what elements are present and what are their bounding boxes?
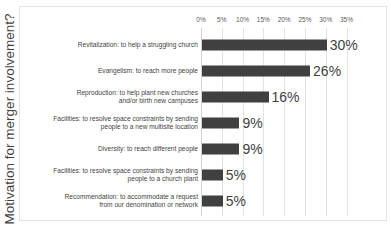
category-label: Revitalization: to help a struggling chu… — [0, 41, 198, 49]
category-label: Facilities: to resolve space constraints… — [0, 167, 198, 184]
bar-value-label: 9% — [242, 142, 262, 156]
bar[interactable] — [202, 40, 327, 51]
bar-value-label: 5% — [226, 194, 246, 208]
chart-plot-frame: 0%5%10%15%20%25%30%35%Revitalization: to… — [19, 6, 387, 221]
bar-row: Facilities: to resolve space constraints… — [201, 110, 387, 136]
bar[interactable] — [202, 118, 239, 129]
x-tick-label: 35% — [340, 16, 353, 23]
x-tick-label: 10% — [236, 16, 249, 23]
bar[interactable] — [202, 170, 223, 181]
category-label: Recommendation: to accommodate a request… — [0, 193, 198, 210]
bar-row: Diversity: to reach different people9% — [201, 136, 387, 162]
bar[interactable] — [202, 92, 269, 103]
bar-value-label: 26% — [313, 64, 341, 78]
category-label: Evangelism: to reach more people — [0, 67, 198, 75]
bar-value-label: 5% — [226, 168, 246, 182]
bar-row: Recommendation: to accommodate a request… — [201, 188, 387, 214]
bar[interactable] — [202, 144, 239, 155]
x-tick-label: 30% — [319, 16, 332, 23]
bar[interactable] — [202, 196, 223, 207]
bar-row: Evangelism: to reach more people26% — [201, 58, 387, 84]
bar-chart: Motivation for merger involvement? 0%5%1… — [0, 0, 391, 238]
x-tick-label: 15% — [257, 16, 270, 23]
bar[interactable] — [202, 66, 310, 77]
bar-value-label: 30% — [330, 38, 358, 52]
x-tick-label: 0% — [196, 16, 205, 23]
bar-row: Revitalization: to help a struggling chu… — [201, 32, 387, 58]
category-label: Diversity: to reach different people — [0, 145, 198, 153]
category-label: Reproduction: to help plant new churches… — [0, 89, 198, 106]
bar-value-label: 16% — [272, 90, 300, 104]
x-tick-label: 25% — [298, 16, 311, 23]
x-tick-label: 20% — [278, 16, 291, 23]
bar-value-label: 9% — [242, 116, 262, 130]
category-label: Facilities: to resolve space constraints… — [0, 115, 198, 132]
plot-area: 0%5%10%15%20%25%30%35%Revitalization: to… — [201, 28, 387, 216]
x-tick-label: 5% — [217, 16, 226, 23]
bar-row: Facilities: to resolve space constraints… — [201, 162, 387, 188]
bar-row: Reproduction: to help plant new churches… — [201, 84, 387, 110]
